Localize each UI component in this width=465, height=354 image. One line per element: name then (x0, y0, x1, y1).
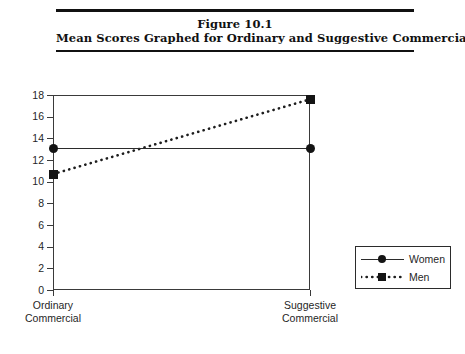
figure-number: Figure 10.1 (56, 17, 414, 32)
figure-header: Figure 10.1 Mean Scores Graphed for Ordi… (56, 9, 414, 52)
legend-label-men: Men (409, 272, 429, 283)
figure-caption: Figure 10.1 Mean Scores Graphed for Ordi… (56, 12, 414, 50)
chart-legend: Women Men (355, 246, 451, 289)
chart: 024681012141618 OrdinaryCommercialSugges… (0, 78, 465, 354)
figure-title: Mean Scores Graphed for Ordinary and Sug… (56, 31, 414, 46)
legend-label-women: Women (409, 254, 445, 265)
legend-item-men: Men (361, 269, 429, 285)
data-point-women-1 (306, 144, 315, 153)
square-marker-icon (378, 273, 386, 281)
data-point-women-0 (49, 144, 58, 153)
header-rule-bottom (56, 50, 414, 53)
circle-marker-icon (378, 255, 386, 263)
series-men-line (0, 78, 465, 354)
data-point-men-0 (49, 170, 58, 179)
data-point-men-1 (306, 95, 315, 104)
legend-item-women: Women (361, 251, 445, 267)
series-women-line (53, 148, 310, 149)
legend-swatch-men (361, 271, 404, 283)
legend-swatch-women (361, 253, 404, 265)
